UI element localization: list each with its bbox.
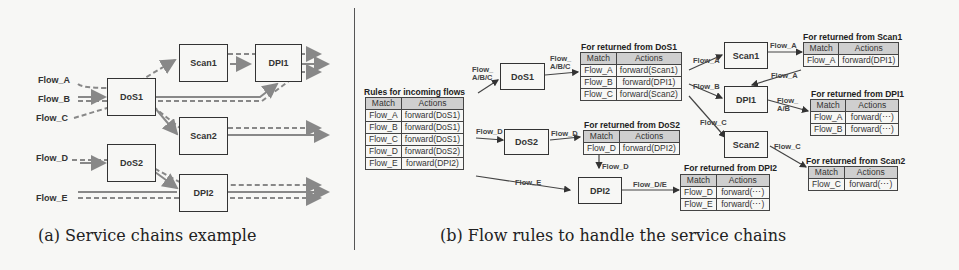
table-title-from-dpi1: For returned from DPI1 bbox=[811, 90, 904, 99]
scan2-node-b: Scan2 bbox=[724, 131, 768, 158]
edge-label-scan1tbl-dpi1: Flow_A bbox=[771, 72, 798, 80]
match-cell: Flow_A bbox=[581, 65, 617, 77]
match-cell: Flow_A bbox=[804, 55, 839, 67]
col-header-match: Match bbox=[584, 131, 620, 143]
edge-label-to-dpi1: Flow_B bbox=[693, 83, 720, 91]
col-header-match: Match bbox=[581, 53, 617, 65]
match-cell: Flow_C bbox=[809, 179, 845, 191]
col-header-actions: Actions bbox=[616, 53, 681, 65]
table-title-from-dos2: For returned from DoS2 bbox=[584, 121, 680, 130]
dos1-node-b: DoS1 bbox=[500, 63, 545, 90]
table-row: Flow_Aforward(DoS1) bbox=[366, 110, 464, 122]
edge-label-in-dos1: Flow_ A/B/C bbox=[472, 66, 493, 82]
action-cell: forward(⋯) bbox=[716, 187, 769, 199]
edge-label-in-dpi2: Flow_E bbox=[515, 179, 541, 187]
table-row: Flow_Cforward(DoS1) bbox=[366, 134, 464, 146]
match-cell: Flow_B bbox=[581, 77, 617, 89]
table-row: Flow_Aforward(⋯) bbox=[811, 112, 899, 124]
col-header-actions: Actions bbox=[846, 100, 899, 112]
table-row: Flow_Dforward(DoS2) bbox=[366, 146, 464, 158]
match-cell: Flow_A bbox=[366, 110, 402, 122]
edge-label-dos2-out: Flow_D bbox=[551, 130, 578, 138]
edge-label-scan2-out: Flow_C bbox=[774, 143, 801, 151]
rules-table-from-dos1: Match Actions Flow_Aforward(Scan1) Flow_… bbox=[580, 52, 682, 101]
table-row: Flow_Dforward(⋯) bbox=[681, 187, 770, 199]
rules-table-from-scan2: Match Actions Flow_Cforward(⋯) bbox=[808, 166, 898, 191]
action-cell: forward(DPI2) bbox=[619, 143, 679, 155]
table-title-from-scan2: For returned from Scan2 bbox=[806, 157, 905, 166]
action-cell: forward(DPI1) bbox=[839, 55, 899, 67]
table-row: Flow_Dforward(DPI2) bbox=[584, 143, 680, 155]
table-row: Flow_Cforward(⋯) bbox=[809, 179, 898, 191]
col-header-match: Match bbox=[681, 175, 717, 187]
col-header-match: Match bbox=[811, 100, 846, 112]
rules-table-from-scan1: Match Actions Flow_Aforward(DPI1) bbox=[803, 42, 899, 67]
table-row: Flow_Aforward(DPI1) bbox=[804, 55, 899, 67]
match-cell: Flow_A bbox=[811, 112, 846, 124]
action-cell: forward(DoS1) bbox=[401, 134, 463, 146]
match-cell: Flow_B bbox=[811, 124, 846, 136]
rules-table-from-dpi1: Match Actions Flow_Aforward(⋯) Flow_Bfor… bbox=[810, 99, 899, 136]
table-row: Flow_Bforward(⋯) bbox=[811, 124, 899, 136]
edge-label-in-dos2: Flow_D bbox=[476, 128, 503, 136]
scan1-node-b: Scan1 bbox=[724, 42, 768, 69]
action-cell: forward(⋯) bbox=[846, 124, 899, 136]
match-cell: Flow_D bbox=[681, 187, 717, 199]
action-cell: forward(Scan2) bbox=[616, 89, 681, 101]
action-cell: forward(DPI1) bbox=[616, 77, 681, 89]
match-cell: Flow_D bbox=[366, 146, 402, 158]
edge-label-dpi2-out: Flow_D/E bbox=[633, 181, 667, 189]
col-header-match: Match bbox=[366, 98, 402, 110]
table-title-incoming: Rules for incoming flows bbox=[364, 88, 465, 97]
dos2-node-b: DoS2 bbox=[504, 129, 549, 155]
col-header-actions: Actions bbox=[619, 131, 679, 143]
rules-table-from-dpi2: Match Actions Flow_Dforward(⋯) Flow_Efor… bbox=[680, 174, 770, 211]
col-header-actions: Actions bbox=[401, 98, 463, 110]
col-header-actions: Actions bbox=[716, 175, 769, 187]
edge-label-to-scan1: Flow_A bbox=[693, 57, 720, 65]
match-cell: Flow_B bbox=[366, 122, 402, 134]
table-row: Flow_Eforward(⋯) bbox=[681, 199, 770, 211]
rules-table-from-dos2: Match Actions Flow_Dforward(DPI2) bbox=[583, 130, 680, 155]
action-cell: forward(⋯) bbox=[846, 112, 899, 124]
col-header-actions: Actions bbox=[844, 167, 897, 179]
action-cell: forward(DPI2) bbox=[401, 158, 463, 170]
edge-label-dos1-out: Flow_ A/B/C bbox=[550, 55, 571, 71]
table-row: Flow_Bforward(DoS1) bbox=[366, 122, 464, 134]
table-row: Flow_Eforward(DPI2) bbox=[366, 158, 464, 170]
action-cell: forward(DoS1) bbox=[401, 122, 463, 134]
edge-label-to-scan2: Flow_C bbox=[700, 119, 727, 127]
table-title-from-dos1: For returned from DoS1 bbox=[581, 43, 677, 52]
col-header-actions: Actions bbox=[839, 43, 899, 55]
match-cell: Flow_E bbox=[366, 158, 402, 170]
table-row: Flow_Cforward(Scan2) bbox=[581, 89, 682, 101]
table-title-from-dpi2: For returned from DPI2 bbox=[684, 164, 777, 173]
match-cell: Flow_C bbox=[366, 134, 402, 146]
action-cell: forward(⋯) bbox=[716, 199, 769, 211]
action-cell: forward(DoS1) bbox=[401, 110, 463, 122]
col-header-match: Match bbox=[804, 43, 839, 55]
action-cell: forward(Scan1) bbox=[616, 65, 681, 77]
table-row: Flow_Aforward(Scan1) bbox=[581, 65, 682, 77]
match-cell: Flow_E bbox=[681, 199, 717, 211]
action-cell: forward(⋯) bbox=[844, 179, 897, 191]
table-title-from-scan1: For returned from Scan1 bbox=[803, 33, 902, 42]
match-cell: Flow_D bbox=[584, 143, 620, 155]
dpi1-node-b: DPI1 bbox=[724, 86, 768, 113]
edge-label-dpi1-out: Flow_ A/B bbox=[777, 97, 798, 113]
col-header-match: Match bbox=[809, 167, 845, 179]
edge-label-dos2tbl-dpi2: Flow_D bbox=[602, 163, 629, 171]
dpi2-node-b: DPI2 bbox=[578, 177, 622, 204]
caption-b: (b) Flow rules to handle the service cha… bbox=[440, 226, 786, 245]
rules-table-incoming: Match Actions Flow_Aforward(DoS1) Flow_B… bbox=[365, 97, 464, 170]
table-row: Flow_Bforward(DPI1) bbox=[581, 77, 682, 89]
match-cell: Flow_C bbox=[581, 89, 617, 101]
action-cell: forward(DoS2) bbox=[401, 146, 463, 158]
edge-label-scan1-out: Flow_A bbox=[770, 42, 797, 50]
